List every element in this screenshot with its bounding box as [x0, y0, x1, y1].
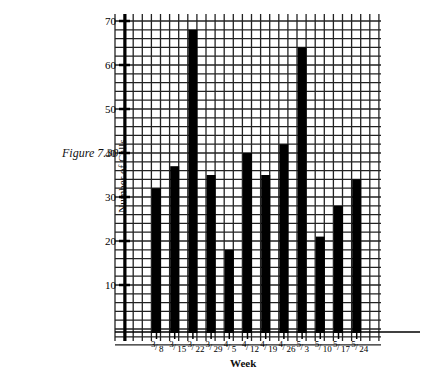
- svg-text:/: /: [319, 342, 322, 352]
- bar: [188, 30, 197, 333]
- x-tick-label: 3/15: [169, 339, 187, 354]
- x-tick-label: 5/10: [315, 339, 333, 354]
- svg-text:/: /: [264, 342, 267, 352]
- svg-text:/: /: [173, 342, 176, 352]
- svg-text:/: /: [246, 342, 249, 352]
- svg-text:/: /: [282, 342, 285, 352]
- y-tick-label: 40: [105, 147, 117, 159]
- y-axis: 10203040506070: [105, 14, 130, 341]
- svg-text:5: 5: [232, 344, 237, 354]
- x-tick-labels: 3/83/153/223/294/54/124/194/265/35/105/1…: [151, 339, 369, 354]
- x-tick-label: 5/24: [351, 339, 369, 354]
- x-tick-label: 4/5: [224, 339, 237, 354]
- svg-text:/: /: [355, 342, 358, 352]
- bar: [152, 188, 161, 333]
- svg-text:17: 17: [341, 344, 351, 354]
- svg-text:24: 24: [359, 344, 369, 354]
- svg-text:8: 8: [159, 344, 164, 354]
- bar: [298, 47, 307, 333]
- x-tick-label: 4/12: [242, 339, 259, 354]
- bars: [152, 30, 361, 339]
- svg-text:/: /: [155, 342, 158, 352]
- x-tick-label: 5/17: [333, 339, 351, 354]
- y-tick-label: 60: [105, 59, 117, 71]
- svg-text:12: 12: [250, 344, 259, 354]
- svg-text:15: 15: [177, 344, 187, 354]
- bar: [207, 175, 216, 333]
- svg-text:29: 29: [214, 344, 224, 354]
- y-tick-label: 70: [105, 15, 117, 27]
- x-tick-label: 3/29: [206, 339, 224, 354]
- x-tick-label: 4/26: [278, 339, 296, 354]
- x-tick-label: 3/22: [187, 339, 204, 354]
- bar-chart: 10203040506070 3/83/153/223/294/54/124/1…: [0, 0, 443, 376]
- bar: [279, 144, 288, 333]
- x-tick-label: 5/3: [297, 339, 310, 354]
- svg-text:26: 26: [286, 344, 296, 354]
- bar: [243, 153, 252, 333]
- svg-text:10: 10: [323, 344, 333, 354]
- svg-text:/: /: [228, 342, 231, 352]
- svg-text:22: 22: [195, 344, 204, 354]
- bar: [352, 179, 361, 333]
- svg-text:/: /: [337, 342, 340, 352]
- y-tick-label: 30: [105, 191, 117, 203]
- bar: [170, 166, 179, 333]
- y-tick-label: 50: [105, 103, 117, 115]
- y-tick-label: 10: [105, 279, 117, 291]
- x-tick-label: 3/8: [151, 339, 164, 354]
- svg-text:/: /: [191, 342, 194, 352]
- svg-text:3: 3: [305, 344, 310, 354]
- svg-text:/: /: [210, 342, 213, 352]
- y-tick-label: 20: [105, 235, 117, 247]
- svg-text:19: 19: [268, 344, 278, 354]
- x-tick-label: 4/19: [260, 339, 278, 354]
- bar: [225, 250, 234, 333]
- bar: [261, 175, 270, 333]
- bar: [334, 206, 343, 333]
- bar: [316, 237, 325, 333]
- svg-text:/: /: [301, 342, 304, 352]
